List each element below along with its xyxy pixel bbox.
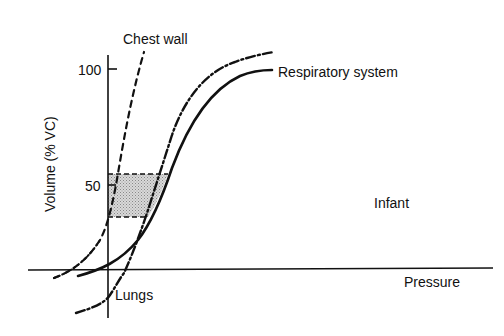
- respiratory-system-curve: [78, 70, 272, 276]
- infant-label: Infant: [374, 195, 409, 211]
- tick-label-100: 100: [78, 62, 101, 78]
- pressure-volume-diagram: Chest wall Respiratory system Lungs Infa…: [0, 0, 504, 336]
- volume-axis-label: Volume (% VC): [42, 116, 58, 212]
- tick-label-50: 50: [85, 178, 101, 194]
- respiratory-system-label: Respiratory system: [278, 64, 398, 80]
- pressure-axis-label: Pressure: [404, 274, 460, 290]
- chest-wall-curve: [54, 52, 144, 278]
- lungs-curve: [76, 52, 274, 313]
- chest-wall-label: Chest wall: [123, 31, 188, 47]
- lungs-label: Lungs: [115, 287, 153, 303]
